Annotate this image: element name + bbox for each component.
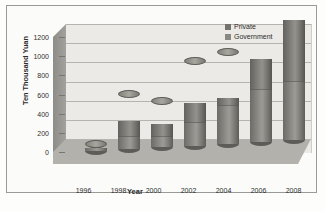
- legend-label: Private: [234, 23, 256, 30]
- bar-segment-divider: [151, 136, 173, 137]
- x-axis-tick-label: 2000: [134, 187, 174, 194]
- table-row[interactable]: [217, 98, 239, 144]
- y-axis-tick-label: 400: [37, 110, 49, 117]
- x-axis-tick-label: 2004: [204, 187, 244, 194]
- bar-segment-private[interactable]: [184, 103, 206, 123]
- legend-item[interactable]: Government: [225, 33, 273, 40]
- table-row[interactable]: [283, 20, 305, 140]
- bar-segment-private[interactable]: [118, 121, 140, 136]
- x-axis-tick-label: 2008: [274, 187, 314, 194]
- bar-segment-divider: [283, 81, 305, 82]
- legend-swatch-icon: [225, 34, 231, 40]
- table-row[interactable]: [184, 103, 206, 145]
- table-row[interactable]: [151, 124, 173, 147]
- y-axis-tick-label: 200: [37, 129, 49, 136]
- y-axis-tick-mark: [59, 56, 65, 57]
- bar-segment-private[interactable]: [250, 59, 272, 90]
- gridline: [66, 43, 311, 44]
- table-row[interactable]: [85, 148, 107, 151]
- plot-area: 020040060080010001200 199619982000200220…: [53, 24, 311, 164]
- legend-item[interactable]: Private: [225, 23, 273, 30]
- bar-segment-government[interactable]: [217, 106, 239, 143]
- chart-figure: Ten Thousand Yuan Year 02004006008001000…: [0, 0, 325, 212]
- y-axis-tick-mark: [59, 75, 65, 76]
- y-axis-tick-label: 0: [45, 149, 49, 156]
- bar-segment-divider: [250, 89, 272, 90]
- x-axis-tick-label: 2002: [169, 187, 209, 194]
- y-axis-tick-label: 1000: [33, 53, 49, 60]
- y-axis-tick-label: 1200: [33, 34, 49, 41]
- y-axis-tick-label: 600: [37, 91, 49, 98]
- bar-top-cap: [118, 90, 140, 98]
- y-axis-tick-mark: [59, 95, 65, 96]
- x-axis-tick-label: 2006: [239, 187, 279, 194]
- bar-segment-government[interactable]: [184, 123, 206, 145]
- legend-label: Government: [234, 33, 273, 40]
- table-row[interactable]: [250, 59, 272, 141]
- bar-segment-government[interactable]: [151, 137, 173, 148]
- chart-legend: PrivateGovernment: [225, 23, 273, 43]
- gridline: [66, 101, 311, 102]
- bar-segment-government[interactable]: [118, 137, 140, 149]
- bar-segment-divider: [217, 105, 239, 106]
- bar-segment-government[interactable]: [85, 148, 107, 151]
- y-axis-tick-mark: [59, 114, 65, 115]
- y-axis-title: Ten Thousand Yuan: [21, 21, 30, 121]
- y-axis-tick-label: 800: [37, 72, 49, 79]
- bar-segment-divider: [184, 122, 206, 123]
- x-axis-tick-label: 1996: [64, 187, 104, 194]
- bar-top-cap: [217, 48, 239, 56]
- bar-segment-private[interactable]: [283, 20, 305, 82]
- chart-frame: Ten Thousand Yuan Year 02004006008001000…: [6, 5, 317, 193]
- y-axis-tick-mark: [59, 37, 65, 38]
- legend-swatch-icon: [225, 24, 231, 30]
- bar-segment-government[interactable]: [283, 82, 305, 140]
- y-axis-tick-mark: [59, 133, 65, 134]
- y-axis-tick-mark: [59, 152, 65, 153]
- table-row[interactable]: [118, 121, 140, 149]
- x-axis-tick-label: 1998: [99, 187, 139, 194]
- bar-segment-divider: [118, 136, 140, 137]
- gridline: [66, 24, 311, 25]
- gridline: [66, 82, 311, 83]
- bar-segment-government[interactable]: [250, 90, 272, 142]
